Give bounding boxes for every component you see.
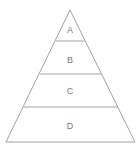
pyramid-diagram: A B C D — [0, 0, 140, 145]
level-a-label: A — [67, 25, 73, 35]
level-d-label: D — [67, 121, 74, 131]
level-b-label: B — [67, 55, 73, 65]
level-c-label: C — [67, 86, 74, 96]
